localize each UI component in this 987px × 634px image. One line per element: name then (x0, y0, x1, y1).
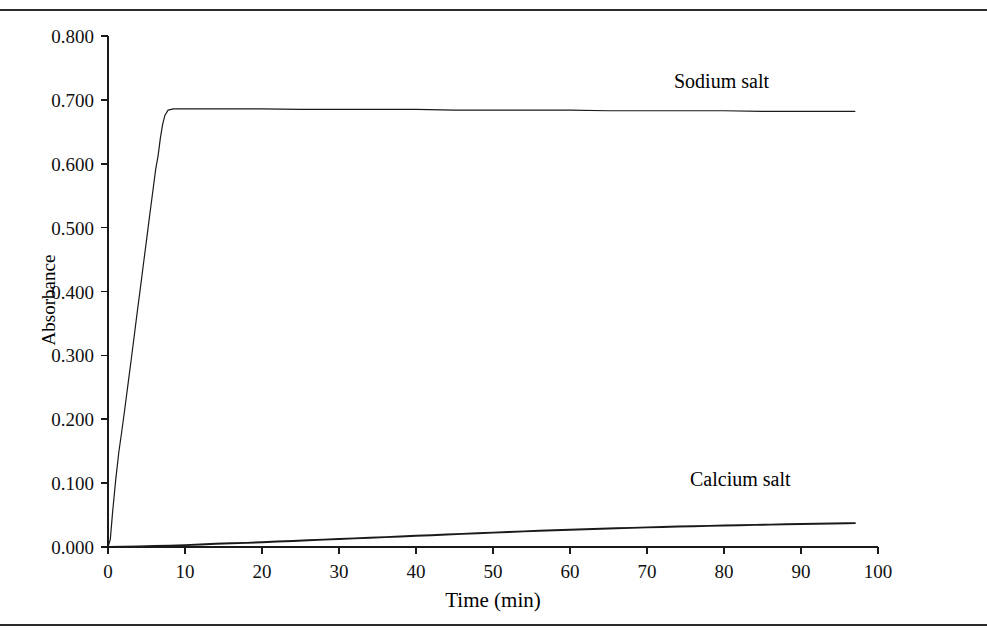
x-axis-title: Time (min) (445, 588, 540, 613)
y-tick-label: 0.200 (0, 410, 94, 429)
y-tick-label: 0.800 (0, 27, 94, 46)
y-tick-label: 0.000 (0, 538, 94, 557)
y-tick-label: 0.300 (0, 346, 94, 365)
series-label-sodium: Sodium salt (674, 70, 769, 93)
y-tick-label: 0.100 (0, 474, 94, 493)
x-tick-label: 90 (792, 562, 811, 581)
x-tick-label: 0 (103, 562, 113, 581)
y-tick-label: 0.700 (0, 90, 94, 109)
x-tick-label: 10 (176, 562, 195, 581)
figure-container: 0.0000.1000.2000.3000.4000.5000.6000.700… (0, 0, 987, 634)
y-tick-label: 0.500 (0, 218, 94, 237)
x-tick-label: 100 (864, 562, 893, 581)
x-tick-label: 80 (715, 562, 734, 581)
x-tick-label: 60 (561, 562, 580, 581)
x-tick-label: 30 (330, 562, 349, 581)
x-tick-label: 20 (253, 562, 272, 581)
x-tick-label: 70 (638, 562, 657, 581)
y-axis-title: Absorbance (38, 255, 60, 346)
x-tick-label: 50 (484, 562, 503, 581)
x-tick-label: 40 (407, 562, 426, 581)
chart-plot-area (0, 0, 987, 634)
series-line-calcium-salt (108, 523, 855, 547)
y-tick-label: 0.600 (0, 154, 94, 173)
series-label-calcium: Calcium salt (690, 468, 791, 491)
